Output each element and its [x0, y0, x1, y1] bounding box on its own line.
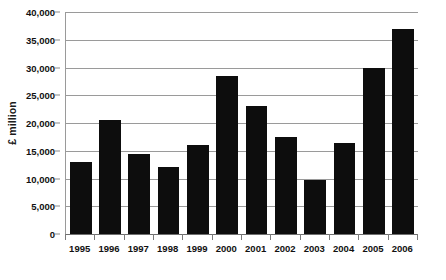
x-axis-tick-mark: [329, 234, 330, 240]
bar-slot: [125, 12, 154, 234]
bar-2006: [392, 29, 414, 234]
x-axis-tick-marks: [65, 234, 417, 240]
bar-slot: [213, 12, 242, 234]
x-axis-tick-mark: [270, 234, 271, 240]
x-axis-tick-label: 1999: [182, 242, 211, 260]
plot-area: [65, 12, 418, 234]
y-axis-tick-label: 30,000: [26, 62, 55, 73]
bar-2005: [363, 68, 385, 235]
y-axis-tick-label: 5,000: [31, 201, 55, 212]
bar-1995: [70, 162, 92, 234]
bar-slot: [359, 12, 388, 234]
x-axis-tick-label: 1998: [153, 242, 182, 260]
x-axis-tick-label: 2000: [212, 242, 241, 260]
y-axis-tick-label: 10,000: [26, 173, 55, 184]
bar-slot: [242, 12, 271, 234]
y-axis-tick-mark: [55, 206, 60, 207]
bar-slot: [95, 12, 124, 234]
y-axis-tick-mark: [55, 178, 60, 179]
bar-1996: [99, 120, 121, 234]
x-axis-tick-mark: [182, 234, 183, 240]
bar-slot: [301, 12, 330, 234]
bar-series: [66, 12, 418, 234]
bar-slot: [154, 12, 183, 234]
y-axis-tick-label: 40,000: [26, 7, 55, 18]
x-axis-tick-labels: 1995199619971998199920002001200220032004…: [65, 242, 417, 260]
x-axis-tick-mark: [388, 234, 389, 240]
bar-slot: [183, 12, 212, 234]
y-axis-tick-mark: [55, 234, 60, 235]
bar-2002: [275, 137, 297, 234]
y-axis-tick-label: 15,000: [26, 145, 55, 156]
x-axis-tick-mark: [417, 234, 418, 240]
y-axis-tick-mark: [55, 150, 60, 151]
bar-slot: [330, 12, 359, 234]
bar-2003: [304, 180, 326, 234]
bar-2001: [246, 106, 268, 234]
bar-1997: [128, 154, 150, 234]
x-axis-tick-label: 2004: [329, 242, 358, 260]
y-axis-tick-label: 25,000: [26, 90, 55, 101]
x-axis-tick-label: 1996: [94, 242, 123, 260]
x-axis-tick-label: 2006: [388, 242, 417, 260]
x-axis-tick-label: 1997: [124, 242, 153, 260]
x-axis-tick-mark: [65, 234, 66, 240]
x-axis-tick-label: 2001: [241, 242, 270, 260]
x-axis-tick-mark: [153, 234, 154, 240]
bar-1998: [158, 167, 180, 234]
x-axis-tick-mark: [300, 234, 301, 240]
bar-1999: [187, 145, 209, 234]
bar-slot: [389, 12, 418, 234]
y-axis-tick-mark: [55, 12, 60, 13]
x-axis-tick-mark: [94, 234, 95, 240]
x-axis-tick-mark: [124, 234, 125, 240]
y-axis-tick-labels: 05,00010,00015,00020,00025,00030,00035,0…: [18, 12, 60, 234]
y-axis-tick-mark: [55, 123, 60, 124]
x-axis-tick-label: 2003: [300, 242, 329, 260]
y-axis-tick-label: 20,000: [26, 118, 55, 129]
bar-chart: £ million 05,00010,00015,00020,00025,000…: [0, 0, 446, 280]
x-axis-tick-label: 2005: [358, 242, 387, 260]
x-axis-tick-mark: [241, 234, 242, 240]
x-axis-tick-mark: [358, 234, 359, 240]
y-axis-tick-mark: [55, 67, 60, 68]
bar-2004: [334, 143, 356, 234]
x-axis-tick-label: 2002: [270, 242, 299, 260]
y-axis-title-label: £ million: [6, 101, 18, 145]
x-axis-tick-label: 1995: [65, 242, 94, 260]
y-axis-tick-mark: [55, 39, 60, 40]
bar-slot: [271, 12, 300, 234]
y-axis-tick-mark: [55, 95, 60, 96]
bar-2000: [216, 76, 238, 234]
x-axis-tick-mark: [212, 234, 213, 240]
bar-slot: [66, 12, 95, 234]
y-axis-tick-label: 35,000: [26, 34, 55, 45]
